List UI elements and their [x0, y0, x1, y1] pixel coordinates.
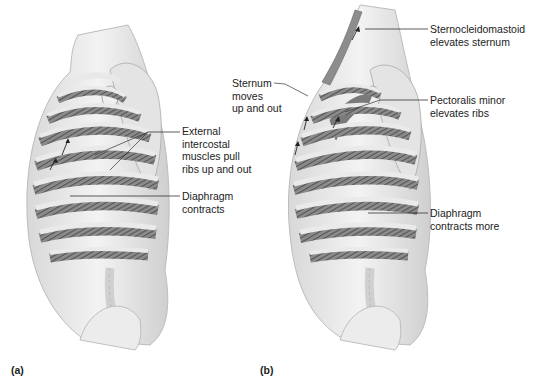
rib-cage-illustrations [0, 0, 557, 387]
label-external-intercostal: External intercostal muscles pull ribs u… [182, 125, 251, 175]
label-sternum-moves: Sternum moves up and out [232, 77, 282, 115]
label-sternocleidomastoid: Sternocleidomastoid elevates sternum [430, 23, 525, 48]
label-diaphragm-contracts-more: Diaphragm contracts more [430, 207, 499, 232]
panel-a-illustration [27, 25, 180, 350]
panel-label-b: (b) [260, 364, 273, 376]
label-diaphragm-contracts: Diaphragm contracts [182, 190, 233, 215]
label-pectoralis-minor: Pectoralis minor elevates ribs [430, 94, 505, 119]
panel-b-illustration [274, 5, 430, 350]
panel-label-a: (a) [11, 364, 24, 376]
